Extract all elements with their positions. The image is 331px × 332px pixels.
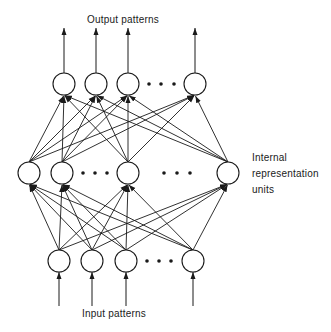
unit-nodes bbox=[18, 73, 239, 272]
hidden-unit-node bbox=[117, 162, 139, 184]
input-patterns-label: Input patterns bbox=[82, 308, 146, 319]
input-ellipsis-dot bbox=[169, 259, 173, 263]
network-graph bbox=[0, 0, 331, 332]
connection-edge bbox=[195, 96, 228, 162]
output-ellipsis-dot bbox=[159, 82, 163, 86]
neural-network-diagram: Output patterns Internal representation … bbox=[0, 0, 331, 332]
hidden-unit-node bbox=[217, 162, 239, 184]
hidden-ellipsis-dot bbox=[175, 171, 179, 175]
connection-edge bbox=[29, 95, 194, 162]
hidden-ellipsis-dot bbox=[188, 171, 192, 175]
connection-edge bbox=[97, 95, 228, 162]
internal-label-line1: Internal bbox=[252, 152, 287, 163]
connection-edge bbox=[59, 184, 227, 250]
input-unit-node bbox=[182, 250, 204, 272]
output-unit-node bbox=[53, 73, 75, 95]
output-patterns-label: Output patterns bbox=[87, 14, 159, 25]
hidden-unit-node bbox=[51, 162, 73, 184]
output-ellipsis-dot bbox=[147, 82, 151, 86]
connection-edge bbox=[129, 185, 193, 250]
hidden-ellipsis-dot bbox=[162, 171, 166, 175]
connection-edge bbox=[128, 96, 194, 162]
connection-edge bbox=[126, 185, 227, 250]
hidden-ellipsis-dot bbox=[93, 171, 97, 175]
connection-edge bbox=[92, 185, 128, 250]
connection-edge bbox=[65, 96, 128, 162]
connection-edge bbox=[65, 95, 228, 162]
input-ellipsis-dot bbox=[157, 259, 161, 263]
connection-edge bbox=[129, 96, 228, 162]
internal-label-line2: representation bbox=[252, 168, 319, 179]
input-unit-node bbox=[48, 250, 70, 272]
hidden-ellipsis-dot bbox=[105, 171, 109, 175]
output-unit-node bbox=[85, 73, 107, 95]
hidden-unit-node bbox=[18, 162, 40, 184]
connection-edge bbox=[62, 185, 92, 250]
input-ellipsis-dot bbox=[145, 259, 149, 263]
input-unit-node bbox=[115, 250, 137, 272]
hidden-ellipsis-dot bbox=[81, 171, 85, 175]
output-unit-node bbox=[184, 73, 206, 95]
connection-edge bbox=[29, 96, 64, 162]
input-unit-node bbox=[81, 250, 103, 272]
output-unit-node bbox=[117, 73, 139, 95]
output-ellipsis-dot bbox=[172, 82, 176, 86]
connection-edge bbox=[193, 185, 228, 250]
internal-label-line3: units bbox=[252, 184, 274, 195]
